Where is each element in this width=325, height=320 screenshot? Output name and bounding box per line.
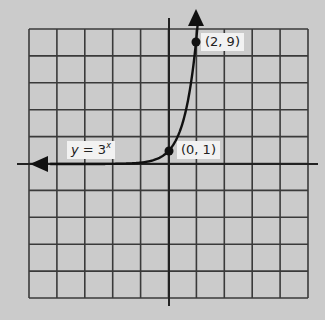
equation-variable: y bbox=[71, 142, 79, 157]
left-arrow-icon bbox=[30, 156, 48, 172]
point-label-2-9: (2, 9) bbox=[201, 33, 244, 51]
equation-exponent: x bbox=[106, 141, 111, 150]
graph bbox=[0, 0, 325, 320]
equation-base: = 3 bbox=[79, 142, 106, 157]
point-2-9 bbox=[192, 38, 201, 47]
point-label-0-1: (0, 1) bbox=[177, 141, 220, 159]
point-0-1 bbox=[165, 147, 174, 156]
up-arrow-icon bbox=[188, 9, 204, 26]
equation-label: y = 3x bbox=[67, 141, 115, 159]
